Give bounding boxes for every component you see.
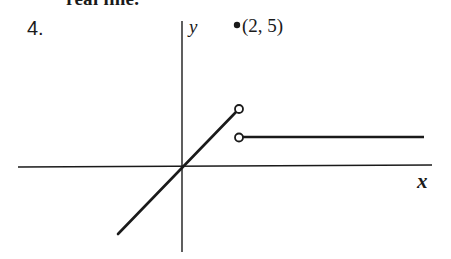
filled-dot-point bbox=[234, 22, 240, 28]
identity-segment bbox=[118, 112, 236, 234]
open-circle-lower bbox=[235, 134, 243, 142]
function-graph bbox=[0, 0, 451, 259]
x-axis bbox=[18, 165, 432, 167]
open-circle-upper bbox=[235, 105, 243, 113]
